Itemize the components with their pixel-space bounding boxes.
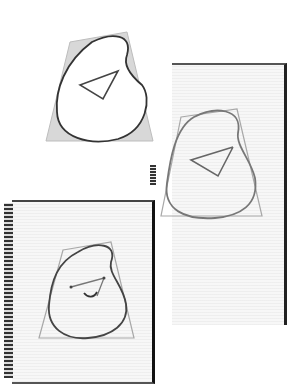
sketch-2-drawing	[161, 109, 262, 218]
sketch-drawings	[0, 0, 298, 387]
sketch-3-drawing	[39, 242, 134, 338]
sketch-1-drawing	[46, 32, 153, 141]
